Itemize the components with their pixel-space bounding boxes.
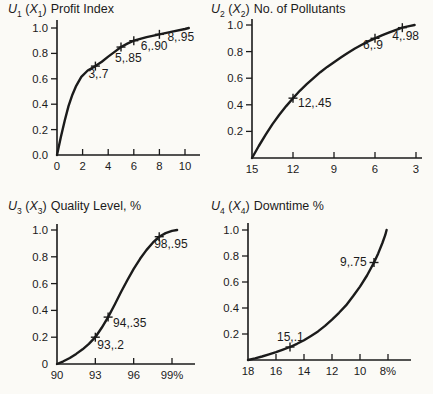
svg-text:12: 12: [326, 365, 339, 377]
svg-text:10: 10: [354, 365, 367, 377]
svg-text:0.4: 0.4: [32, 98, 48, 110]
svg-text:6: 6: [131, 160, 137, 172]
svg-text:0.4: 0.4: [223, 302, 239, 314]
svg-text:0.6: 0.6: [32, 278, 48, 290]
svg-text:0.8: 0.8: [32, 47, 48, 59]
svg-text:9: 9: [331, 163, 337, 175]
svg-text:2: 2: [79, 160, 85, 172]
svg-text:6: 6: [372, 163, 378, 175]
svg-text:0.8: 0.8: [227, 46, 243, 58]
svg-text:16: 16: [270, 365, 283, 377]
figure: U1 (X1)Profit Index U2 (X2)No. of Pollut…: [0, 0, 433, 394]
svg-text:90: 90: [51, 369, 64, 381]
svg-text:1.0: 1.0: [223, 224, 239, 236]
svg-text:1.0: 1.0: [227, 19, 243, 31]
svg-text:8,.95: 8,.95: [167, 30, 194, 44]
svg-text:15,.1: 15,.1: [277, 330, 304, 344]
svg-text:0.2: 0.2: [32, 331, 48, 343]
svg-text:15: 15: [246, 163, 259, 175]
svg-text:94,.35: 94,.35: [113, 316, 147, 330]
svg-text:12,.45: 12,.45: [298, 96, 332, 110]
svg-text:0.2: 0.2: [32, 124, 48, 136]
svg-text:4: 4: [105, 160, 111, 172]
svg-text:0: 0: [42, 358, 48, 370]
panel-u1: 0.00.20.40.60.81.002468103,.75,.856,.908…: [32, 20, 200, 172]
svg-text:98,.95: 98,.95: [154, 237, 188, 251]
panel-u3: 00.20.40.60.81.090939699%93,.294,.3598,.…: [32, 224, 195, 381]
svg-text:0.8: 0.8: [223, 250, 239, 262]
panel-u4: 0.20.40.60.81.018161412108%15,.19,.75: [223, 223, 411, 377]
svg-text:0.4: 0.4: [227, 99, 243, 111]
svg-text:5,.85: 5,.85: [115, 51, 142, 65]
svg-text:8: 8: [156, 160, 162, 172]
svg-text:3,.7: 3,.7: [88, 67, 108, 81]
svg-text:93: 93: [89, 369, 102, 381]
svg-text:1.0: 1.0: [32, 224, 48, 236]
svg-text:9,.75: 9,.75: [340, 255, 367, 269]
svg-text:0.0: 0.0: [32, 149, 48, 161]
svg-text:0.6: 0.6: [223, 276, 239, 288]
svg-text:96: 96: [127, 369, 140, 381]
utility-curves-canvas: 0.00.20.40.60.81.002468103,.75,.856,.908…: [0, 0, 433, 394]
svg-text:4,.98: 4,.98: [392, 29, 419, 43]
svg-text:0: 0: [54, 160, 60, 172]
svg-text:0.8: 0.8: [32, 251, 48, 263]
svg-text:8%: 8%: [380, 365, 396, 377]
svg-text:93,.2: 93,.2: [97, 338, 124, 352]
panel-u2: 0.20.40.60.81.0151296312,.456,.94,.98: [227, 19, 422, 175]
svg-text:3: 3: [413, 163, 419, 175]
svg-text:14: 14: [298, 365, 311, 377]
svg-text:1.0: 1.0: [32, 22, 48, 34]
svg-text:18: 18: [242, 365, 255, 377]
svg-text:99%: 99%: [161, 369, 184, 381]
svg-text:0.2: 0.2: [223, 328, 239, 340]
svg-text:12: 12: [287, 163, 300, 175]
svg-text:0.4: 0.4: [32, 304, 48, 316]
svg-text:10: 10: [179, 160, 192, 172]
svg-text:0.2: 0.2: [227, 125, 243, 137]
svg-text:0.6: 0.6: [32, 73, 48, 85]
svg-text:0.6: 0.6: [227, 72, 243, 84]
svg-text:6,.9: 6,.9: [363, 38, 383, 52]
svg-text:6,.90: 6,.90: [141, 39, 168, 53]
